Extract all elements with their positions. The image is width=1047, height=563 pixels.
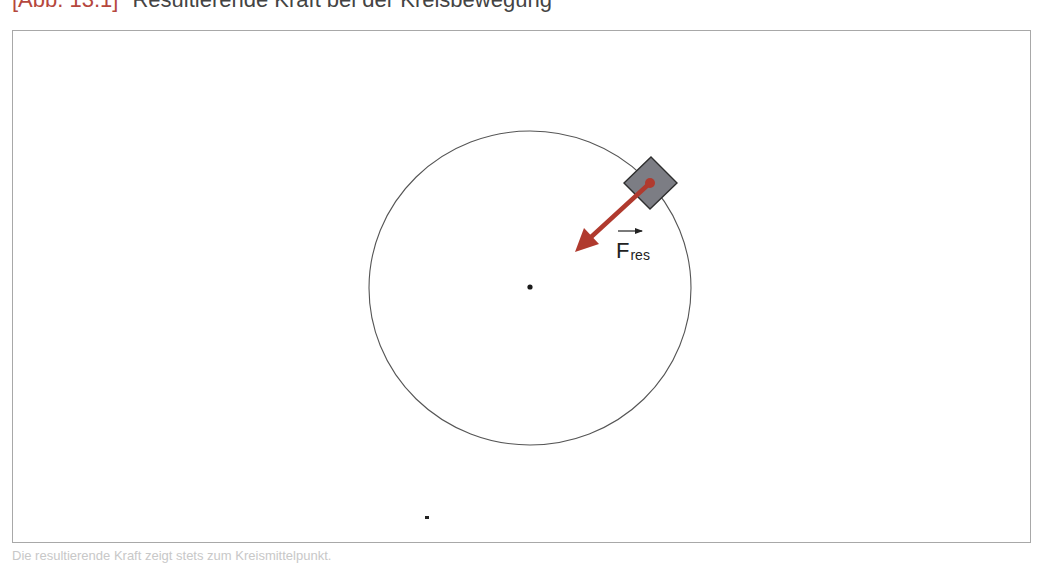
- force-symbol: F: [616, 238, 629, 263]
- figure-caption: Die resultierende Kraft zeigt stets zum …: [12, 549, 331, 563]
- force-subscript: res: [630, 247, 649, 263]
- stray-dot: [425, 516, 429, 519]
- resultant-force-arrow: [575, 178, 655, 252]
- force-label: Fres: [616, 238, 650, 263]
- circle-center-point: [527, 284, 532, 289]
